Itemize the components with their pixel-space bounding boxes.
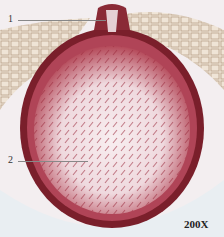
tissue-section-image <box>0 0 224 237</box>
label-1-leader-line <box>18 20 106 21</box>
micrograph-figure: 1 2 200X <box>0 0 224 237</box>
label-1: 1 <box>8 13 13 24</box>
magnification-label: 200X <box>184 218 208 230</box>
label-2: 2 <box>8 154 13 165</box>
label-2-leader-line <box>18 161 88 162</box>
